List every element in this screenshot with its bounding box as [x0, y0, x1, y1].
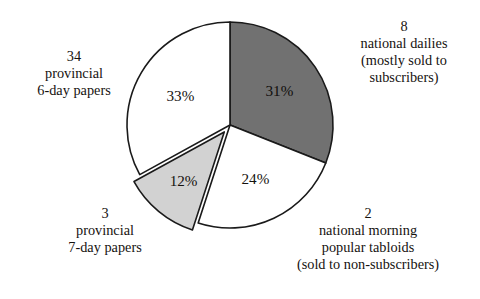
callout-line1-national-tabloids: national morning [256, 222, 480, 239]
slice-value-label-national-tabloids: 24% [241, 170, 269, 188]
callout-national-tabloids: 2 national morning popular tabloids (sol… [256, 205, 480, 272]
callout-line1-provincial-6day: provincial [8, 65, 140, 82]
callout-national-dailies: 8 national dailies (mostly sold to subsc… [330, 18, 478, 85]
callout-provincial-7day: 3 provincial 7-day papers [22, 205, 188, 256]
callout-line2-national-dailies: (mostly sold to [330, 52, 478, 69]
callout-line1-provincial-7day: provincial [22, 222, 188, 239]
callout-count-national-tabloids: 2 [256, 205, 480, 222]
pie-chart-figure: 31% 24% 12% 33% 8 national dailies (most… [0, 0, 480, 299]
callout-line2-provincial-6day: 6-day papers [8, 82, 140, 99]
callout-line2-national-tabloids: popular tabloids [256, 239, 480, 256]
callout-count-national-dailies: 8 [330, 18, 478, 35]
callout-line3-national-dailies: subscribers) [330, 69, 478, 86]
slice-value-label-provincial-6day: 33% [166, 87, 194, 105]
callout-line1-national-dailies: national dailies [330, 35, 478, 52]
callout-line3-national-tabloids: (sold to non-subscribers) [256, 256, 480, 273]
callout-count-provincial-6day: 34 [8, 48, 140, 65]
callout-line2-provincial-7day: 7-day papers [22, 239, 188, 256]
callout-provincial-6day: 34 provincial 6-day papers [8, 48, 140, 99]
slice-value-label-national-dailies: 31% [265, 82, 293, 100]
callout-count-provincial-7day: 3 [22, 205, 188, 222]
slice-value-label-provincial-7day: 12% [170, 172, 198, 190]
pie-slices-group [127, 22, 333, 230]
